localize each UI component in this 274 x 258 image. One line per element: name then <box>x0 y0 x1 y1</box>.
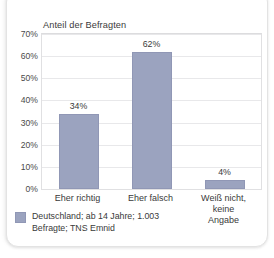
y-axis-tick-label: 20% <box>21 140 38 150</box>
bar-chart: Anteil der Befragten 70%60%50%40%30%20%1… <box>0 0 274 258</box>
bar-value-label: 62% <box>143 39 161 49</box>
y-axis-tick-label: 50% <box>21 73 38 83</box>
x-axis-category-label: Eher falsch <box>128 193 173 204</box>
bar-value-label: 4% <box>218 167 231 177</box>
bar <box>132 52 172 189</box>
y-axis-tick-label: 40% <box>21 95 38 105</box>
legend: Deutschland; ab 14 Jahre; 1.003 Befragte… <box>15 211 159 234</box>
y-axis-tick-label: 30% <box>21 118 38 128</box>
bar-value-label: 34% <box>70 101 88 111</box>
y-axis-tick-label: 60% <box>21 51 38 61</box>
y-axis-tick-label: 0% <box>26 184 38 194</box>
x-axis-category-label: Weiß nicht, keine Angabe <box>198 193 249 225</box>
gridline <box>42 34 261 35</box>
y-axis-tick-label: 70% <box>21 29 38 39</box>
legend-swatch-icon <box>15 212 26 223</box>
legend-source-note: Deutschland; ab 14 Jahre; 1.003 Befragte… <box>32 211 159 234</box>
chart-axis-title: Anteil der Befragten <box>43 20 126 30</box>
bar <box>205 180 245 189</box>
plot-area: 70%60%50%40%30%20%10%0%34%62%4% <box>41 33 262 190</box>
y-axis-tick-label: 10% <box>21 162 38 172</box>
bar <box>59 114 99 189</box>
x-axis-category-label: Eher richtig <box>55 193 101 204</box>
